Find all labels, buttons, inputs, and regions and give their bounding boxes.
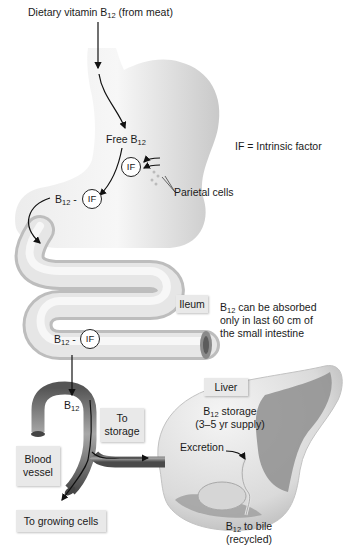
free-b12-label: Free B12 xyxy=(106,133,146,146)
dietary-b12-label: Dietary vitamin B12 (from meat) xyxy=(28,6,173,19)
absorption-note: B12 can be absorbed only in last 60 cm o… xyxy=(220,301,317,340)
liver-label-box: Liver xyxy=(204,378,248,396)
parietal-cells-label: Parietal cells xyxy=(174,186,234,199)
ileum-label-box: Ileum xyxy=(176,295,208,313)
b12-if-complex-ileum-circle: IF xyxy=(80,329,100,349)
legend-intrinsic-factor: IF = Intrinsic factor xyxy=(235,140,322,153)
to-storage-box: To storage xyxy=(100,408,144,442)
b12-storage-label: B12 storage (3–5 yr supply) xyxy=(190,405,270,431)
to-growing-cells-box: To growing cells xyxy=(16,510,106,532)
excretion-label: Excretion xyxy=(180,441,224,454)
intrinsic-factor-circle: IF xyxy=(121,157,141,177)
b12-blood-label: B12 xyxy=(64,399,79,412)
b12-if-complex-stomach-circle: IF xyxy=(82,189,102,209)
b12-if-complex-stomach: B12 - xyxy=(55,193,77,206)
gallbladder xyxy=(198,482,246,510)
b12-to-bile-label: B12 to bile (recycled) xyxy=(218,520,280,546)
b12-if-complex-ileum: B12 - xyxy=(54,333,76,346)
blood-vessel-box: Blood vessel xyxy=(16,446,60,486)
